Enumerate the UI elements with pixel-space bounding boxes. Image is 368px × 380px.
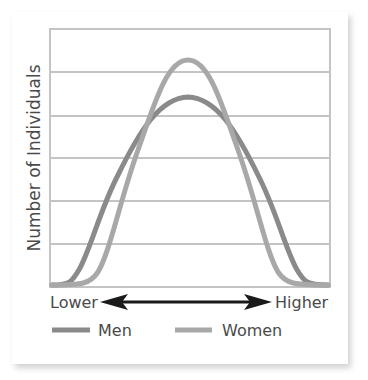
legend: Men Women — [52, 321, 282, 340]
men-curve — [52, 97, 328, 285]
x-axis-lower-label: Lower — [50, 293, 98, 312]
legend-men-label: Men — [98, 321, 132, 340]
chart-svg: Number of Individuals Lower Higher Men W… — [0, 0, 368, 380]
x-axis-higher-label: Higher — [275, 293, 329, 312]
y-axis-label: Number of Individuals — [24, 64, 44, 251]
legend-women-label: Women — [222, 321, 282, 340]
x-axis-arrow — [100, 294, 272, 310]
